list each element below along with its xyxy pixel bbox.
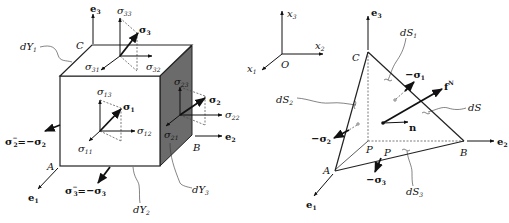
vertex-A: A <box>46 161 54 172</box>
label-neg-sigma3: −σ3 <box>366 174 386 186</box>
label-dY1: dY1 <box>20 41 37 53</box>
global-axes: x3 x2 x1 O <box>247 8 325 75</box>
diagram-canvas: e3 C dY1 σ33 σ3 σ31 σ32 σ1 <box>0 0 509 223</box>
tetrahedron-figure: x3 x2 x1 O e3 C e2 B A e1 P P dS1 <box>247 7 508 211</box>
label-origin-O: O <box>281 59 289 70</box>
label-dS1: dS1 <box>400 27 417 39</box>
label-x3: x3 <box>287 8 297 20</box>
edge-CA <box>335 52 368 171</box>
vertex-P: P <box>365 144 373 155</box>
label-e1-right: e1 <box>306 199 317 211</box>
neg-sigma2-arrow <box>334 130 349 138</box>
edge-AB <box>335 141 464 171</box>
label-x1: x1 <box>247 63 256 75</box>
label-sigma3: σ3 <box>139 24 151 36</box>
neg-sigma1-arrow <box>405 82 414 91</box>
dS2-leader <box>297 98 356 105</box>
vertex-A-right: A <box>322 165 330 176</box>
label-n: n <box>409 122 417 133</box>
label-e2-right: e2 <box>497 136 508 148</box>
label-e2: e2 <box>225 131 236 143</box>
e1-axis-arrow-right <box>314 174 333 196</box>
sigma3-construction-line <box>120 18 137 33</box>
neg-sigma2-hidden-stem <box>349 125 357 130</box>
vertex-B: B <box>192 142 200 153</box>
neg-sigma1-hidden-stem <box>396 91 405 99</box>
label-sigma2-minus: σ−2=−σ2 <box>5 134 46 148</box>
label-e1: e1 <box>28 192 39 204</box>
label-sigma2: σ2 <box>209 94 221 106</box>
x1-axis-arrow <box>262 54 282 70</box>
dY1-leader <box>40 46 72 62</box>
neg-sigma2-origin-point <box>357 123 359 125</box>
label-dY2: dY2 <box>133 204 150 216</box>
dS1-leader <box>388 38 406 80</box>
neg-sigma3-arrow <box>375 158 381 172</box>
label-e3-right: e3 <box>371 7 382 19</box>
label-sigma22: σ22 <box>225 109 240 121</box>
label-dS: dS <box>468 102 481 113</box>
hidden-edge-PA <box>335 141 368 170</box>
label-dS3: dS3 <box>406 186 423 198</box>
vertex-C: C <box>76 40 84 51</box>
label-neg-sigma2: −σ2 <box>311 133 331 145</box>
traction-vector-f-arrow <box>383 89 442 123</box>
neg-sigma1-origin-point <box>394 99 396 101</box>
label-dY3: dY3 <box>192 184 209 196</box>
label-dS2: dS2 <box>276 94 293 106</box>
label-sigma3-minus: σ−3=−σ3 <box>65 183 106 197</box>
stress-cube-figure: e3 C dY1 σ33 σ3 σ31 σ32 σ1 <box>5 3 240 216</box>
label-neg-sigma1: −σ1 <box>405 69 425 81</box>
neg-sigma2-arrow <box>45 125 60 131</box>
label-fN: fN <box>444 79 454 92</box>
label-e3: e3 <box>90 3 101 15</box>
label-x2: x2 <box>315 40 325 52</box>
label-sigma33: σ33 <box>117 5 132 17</box>
dY2-leader <box>133 167 140 203</box>
neg-sigma3-arrow <box>98 167 110 183</box>
normal-n-arrow <box>383 122 408 123</box>
point-P-on-dS3: P <box>383 147 391 158</box>
vertex-C-right: C <box>352 52 360 63</box>
vertex-B-right: B <box>459 147 467 158</box>
